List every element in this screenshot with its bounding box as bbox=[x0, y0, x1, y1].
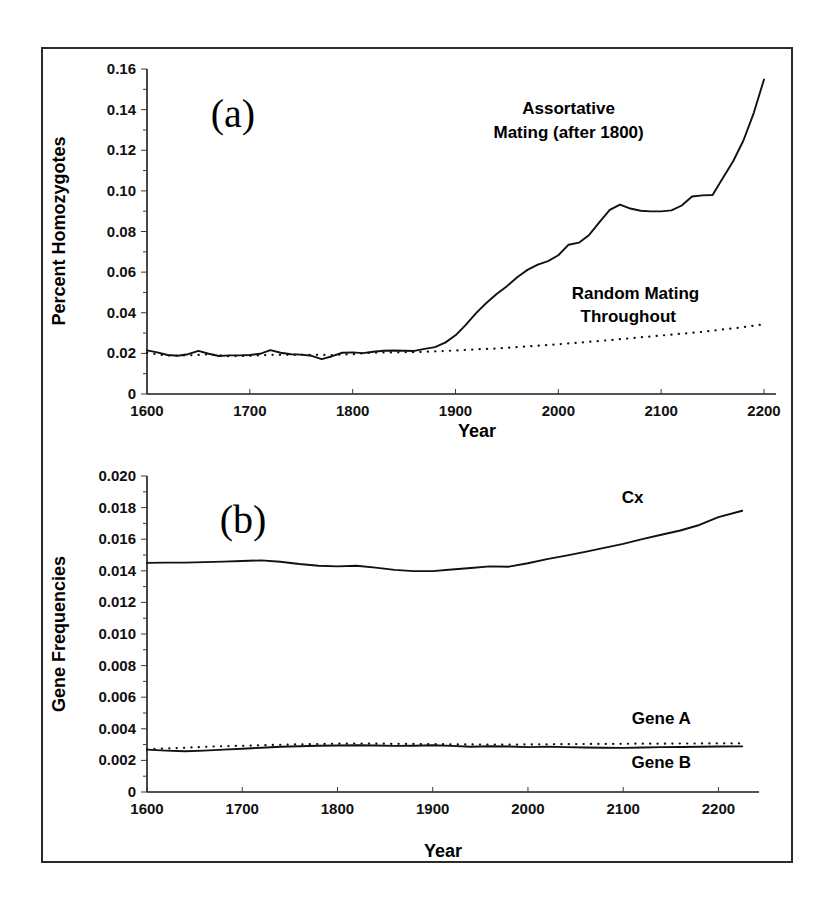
x-tick-label: 1700 bbox=[226, 800, 259, 817]
y-tick-label: 0.06 bbox=[107, 263, 136, 280]
y-tick-label: 0.014 bbox=[98, 562, 136, 579]
y-tick-label: 0.008 bbox=[98, 657, 136, 674]
x-axis-title: Year bbox=[458, 421, 496, 441]
figure-root: 00.020.040.060.080.100.120.140.161600170… bbox=[0, 0, 827, 907]
figure-frame: 00.020.040.060.080.100.120.140.161600170… bbox=[41, 47, 793, 863]
y-tick-label: 0.010 bbox=[98, 625, 136, 642]
y-axis-title: Gene Frequencies bbox=[49, 556, 69, 712]
x-tick-label: 1700 bbox=[233, 402, 266, 419]
y-tick-label: 0.02 bbox=[107, 344, 136, 361]
x-axis-title: Year bbox=[424, 841, 462, 861]
y-tick-label: 0.10 bbox=[107, 182, 136, 199]
x-tick-label: 2100 bbox=[644, 402, 677, 419]
x-tick-label: 2000 bbox=[511, 800, 544, 817]
panel-letter: (a) bbox=[211, 91, 255, 136]
series-line bbox=[147, 324, 764, 356]
panel-letter: (b) bbox=[220, 497, 267, 542]
y-tick-label: 0 bbox=[128, 385, 136, 402]
y-tick-label: 0.12 bbox=[107, 141, 136, 158]
x-tick-label: 2000 bbox=[542, 402, 575, 419]
y-tick-label: 0.004 bbox=[98, 720, 136, 737]
x-tick-label: 1800 bbox=[321, 800, 354, 817]
x-tick-label: 2200 bbox=[747, 402, 780, 419]
panel-b: 00.0020.0040.0060.0080.0100.0120.0140.01… bbox=[43, 449, 791, 865]
panel-a: 00.020.040.060.080.100.120.140.161600170… bbox=[43, 49, 791, 449]
x-tick-label: 1800 bbox=[336, 402, 369, 419]
y-tick-label: 0.08 bbox=[107, 223, 136, 240]
series-annotation: Gene B bbox=[632, 753, 692, 772]
series-annotation: Assortative bbox=[522, 99, 615, 118]
series-annotation: Random Mating bbox=[572, 284, 700, 303]
y-tick-label: 0.016 bbox=[98, 530, 136, 547]
panel-a-plot: 00.020.040.060.080.100.120.140.161600170… bbox=[43, 49, 793, 449]
y-tick-label: 0.04 bbox=[107, 304, 137, 321]
x-tick-label: 2100 bbox=[607, 800, 640, 817]
y-tick-label: 0.14 bbox=[107, 101, 137, 118]
y-axis-title: Percent Homozygotes bbox=[49, 136, 69, 325]
y-tick-label: 0.002 bbox=[98, 751, 136, 768]
x-tick-label: 2200 bbox=[702, 800, 735, 817]
y-tick-label: 0.012 bbox=[98, 593, 136, 610]
series-annotation: Mating (after 1800) bbox=[494, 123, 644, 142]
y-tick-label: 0.020 bbox=[98, 467, 136, 484]
y-tick-label: 0.018 bbox=[98, 499, 136, 516]
x-tick-label: 1600 bbox=[130, 800, 163, 817]
series-annotation: Gene A bbox=[632, 709, 691, 728]
x-tick-label: 1600 bbox=[130, 402, 163, 419]
series-annotation: Cx bbox=[622, 488, 644, 507]
y-tick-label: 0.16 bbox=[107, 60, 136, 77]
x-tick-label: 1900 bbox=[439, 402, 472, 419]
series-annotation: Throughout bbox=[581, 307, 677, 326]
y-tick-label: 0 bbox=[128, 783, 136, 800]
x-tick-label: 1900 bbox=[416, 800, 449, 817]
y-tick-label: 0.006 bbox=[98, 688, 136, 705]
panel-b-plot: 00.0020.0040.0060.0080.0100.0120.0140.01… bbox=[43, 449, 793, 865]
